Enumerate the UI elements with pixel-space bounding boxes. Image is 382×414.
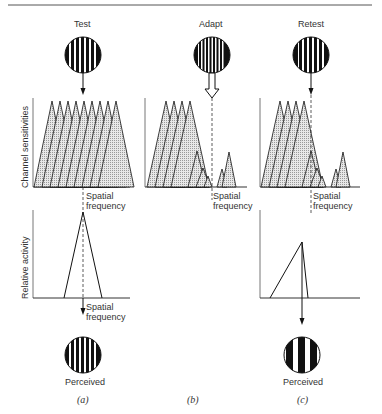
c-channels-xlabel-1: Spatial (313, 191, 341, 201)
test-grating (64, 36, 102, 74)
caption-b: (b) (187, 394, 199, 405)
adapt-label: Adapt (199, 19, 223, 29)
test-arrow (81, 73, 86, 95)
perceived-label-a: Perceived (65, 377, 105, 387)
perceived-grating-a (64, 336, 102, 374)
a-activity-xlabel-1: Spatial (86, 302, 114, 312)
b-channels-xlabel-2: frequency (213, 201, 253, 211)
a-channels-xlabel-1: Spatial (86, 191, 114, 201)
c-channels-xlabel-2: frequency (313, 201, 353, 211)
a-channels-xlabel-2: frequency (86, 201, 126, 211)
perceived-grating-c (283, 336, 321, 374)
channels-plot-b (145, 98, 247, 200)
retest-grating (292, 36, 330, 74)
b-channels-xlabel-1: Spatial (213, 191, 241, 201)
activity-plot-c (260, 210, 360, 325)
retest-label: Retest (298, 19, 324, 29)
retest-arrow (309, 73, 314, 95)
activity-plot-a (33, 210, 130, 315)
caption-a: (a) (77, 394, 89, 405)
channels-plot-c (260, 95, 360, 215)
channels-plot-a (33, 98, 134, 215)
channel-sensitivities-axis-label: Channel sensitivities (20, 106, 30, 188)
test-label: Test (74, 19, 91, 29)
caption-c: (c) (297, 394, 308, 405)
a-activity-xlabel-2: frequency (86, 312, 126, 322)
adapt-hollow-arrow (205, 73, 219, 98)
adapt-grating (193, 36, 232, 74)
relative-activity-axis-label: Relative activity (20, 236, 30, 299)
perceived-label-c: Perceived (283, 377, 323, 387)
